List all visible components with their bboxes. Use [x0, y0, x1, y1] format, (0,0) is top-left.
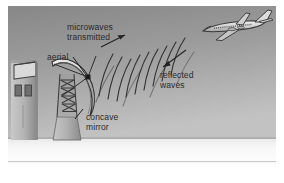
aerial-feed-point — [86, 75, 91, 80]
radar-diagram-figure: microwaves transmitted aerial concave mi… — [0, 0, 284, 183]
building — [11, 60, 38, 140]
tower-base — [53, 117, 81, 140]
ground-shadow-line — [8, 161, 276, 162]
ground-background — [8, 138, 276, 170]
building-window-left — [15, 85, 22, 96]
label-concave-line1: concave — [86, 112, 118, 122]
aircraft-engine-1 — [228, 28, 236, 31]
label-microwaves-transmitted: microwaves transmitted — [67, 22, 113, 42]
label-aerial-text: aerial — [47, 52, 68, 62]
building-window-right — [25, 85, 32, 96]
scene-group — [8, 6, 276, 170]
label-concave-line2: mirror — [86, 122, 118, 132]
diagram-canvas — [0, 0, 284, 183]
label-reflected-waves: reflected waves — [160, 70, 194, 90]
horizon-line — [8, 138, 276, 139]
building-side-face — [35, 60, 38, 140]
label-microwaves-line1: microwaves — [67, 22, 113, 32]
label-aerial: aerial — [47, 52, 68, 62]
aircraft-engine-2 — [238, 26, 245, 29]
label-reflected-line2: waves — [160, 80, 194, 90]
label-microwaves-line2: transmitted — [67, 32, 113, 42]
label-concave-mirror: concave mirror — [86, 112, 118, 132]
label-reflected-line1: reflected — [160, 70, 194, 80]
